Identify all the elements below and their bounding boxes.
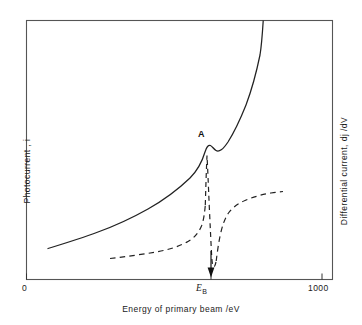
differential-curve-spike bbox=[205, 156, 216, 267]
differential-curve-right bbox=[216, 192, 283, 262]
x-tick-label-0: 0 bbox=[22, 283, 27, 293]
x-axis-title: Energy of primary beam /eV bbox=[0, 304, 362, 314]
point-a-label: A bbox=[198, 129, 205, 139]
photocurrent-chart bbox=[0, 0, 362, 325]
x-tick-label-1000: 1000 bbox=[308, 283, 329, 293]
x-tick-label-eb: EB bbox=[196, 283, 207, 295]
y-axis-title-left: Photocurrent , i bbox=[22, 96, 32, 246]
y-axis-title-right: Differential current, dj /dV bbox=[339, 96, 349, 246]
photocurrent-curve bbox=[48, 21, 263, 249]
differential-curve-left bbox=[110, 205, 205, 259]
eb-subscript: B bbox=[202, 288, 207, 295]
binding-energy-arrow-head bbox=[208, 268, 215, 278]
